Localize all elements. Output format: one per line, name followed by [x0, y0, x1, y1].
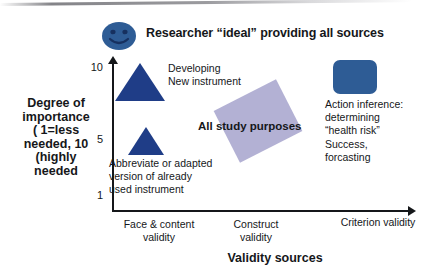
label-all-study-purposes: All study purposes — [198, 120, 302, 132]
y-axis-tick-10: 10 — [79, 61, 103, 73]
y-axis-tick-1: 1 — [79, 189, 103, 201]
label-action-inference: Action inference: determining “health ri… — [325, 98, 403, 164]
x-axis-tick-face-content-validity: Face & content validity — [113, 218, 205, 244]
scan-line-artifact — [0, 0, 429, 6]
y-axis-title: Degree of importance ( 1=less needed, 10… — [4, 97, 108, 179]
x-axis-tick-criterion-validity: Criterion validity — [327, 216, 429, 229]
marker-developing-new-instrument — [115, 60, 165, 101]
marker-action-inference — [333, 60, 377, 94]
label-abbreviate-adapted-version: Abbreviate or adapted version of already… — [109, 157, 212, 197]
marker-abbreviate-adapted-version — [128, 124, 164, 155]
diagram-title: Researcher “ideal” providing all sources — [146, 26, 384, 40]
x-axis-arrowhead — [408, 206, 416, 216]
diagram-canvas: Researcher “ideal” providing all sources… — [0, 0, 429, 277]
label-developing-new-instrument: Developing New instrument — [168, 62, 241, 88]
x-axis-tick-construct-validity: Construct validity — [216, 218, 296, 244]
x-axis-title: Validity sources — [205, 251, 345, 265]
smiley-face-icon — [101, 21, 137, 51]
x-axis-line — [112, 210, 412, 212]
